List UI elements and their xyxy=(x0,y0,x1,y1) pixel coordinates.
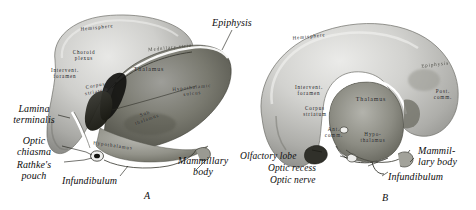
label-optic-chiasma: Optic chiasma xyxy=(6,136,62,157)
label-olfactory-lobe: Olfactory lobe xyxy=(240,152,297,162)
label-thalamus-a: Thalamus xyxy=(122,66,176,74)
label-infundibulum-b: Infundibulum xyxy=(388,172,443,183)
label-interventricular-foramen-a: Intervent. foramen xyxy=(42,67,88,80)
label-mammillary-body-a: Mammillary body xyxy=(172,156,234,177)
label-choroid-plexus: Choroid plexus xyxy=(62,49,106,62)
label-rathkes-pouch: Rathke's pouch xyxy=(6,160,62,181)
label-infundibulum-a: Infundibulum xyxy=(62,176,117,187)
label-anterior-commissure: Ant. comm. xyxy=(320,126,348,139)
label-epiphysis-a: Epiphysis xyxy=(212,18,252,29)
label-lamina-terminalis: Lamina terminalis xyxy=(6,104,62,125)
figure-letter-a: A xyxy=(144,190,150,201)
label-posterior-commissure: Post. comm. xyxy=(428,88,458,101)
label-mammillary-body-b: Mammil- lary body xyxy=(418,146,457,167)
label-corpus-striatum-b: Corpus striatum xyxy=(294,105,336,118)
label-optic-nerve: Optic nerve xyxy=(270,176,316,186)
label-interventricular-foramen-b: Intervent. foramen xyxy=(286,84,332,97)
anatomical-plate: Epiphysis Lamina terminalis Optic chiasm… xyxy=(0,0,476,210)
figure-letter-b: B xyxy=(382,192,388,203)
label-optic-recess: Optic recess xyxy=(268,164,316,174)
label-thalamus-b: Thalamus xyxy=(344,96,398,104)
label-hypothalamus-b: Hypo- thalamus xyxy=(356,131,390,144)
